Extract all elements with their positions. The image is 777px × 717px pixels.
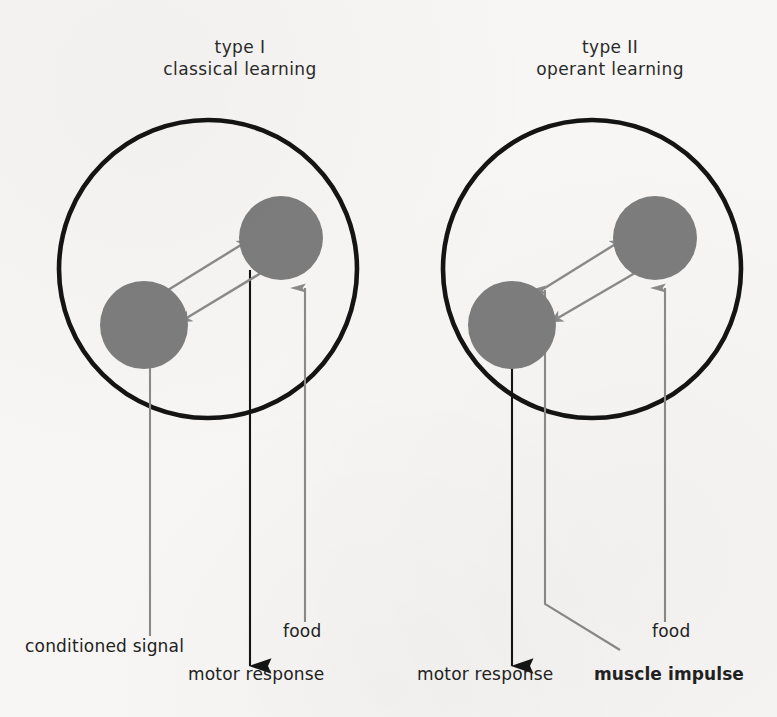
panel-right (443, 120, 741, 666)
panel-left-upper-right-node (239, 196, 323, 280)
panel-left-title: type I classical learning (130, 36, 350, 80)
caption-conditioned-signal: conditioned signal (25, 636, 184, 656)
panel-right-upper-right-node (613, 196, 697, 280)
panel-left (59, 120, 357, 666)
panel-right-boundary-circle (443, 120, 741, 418)
panel-left-title-line2: classical learning (130, 58, 350, 80)
caption-muscle-impulse: muscle impulse (594, 664, 744, 684)
panel-left-boundary-circle (59, 120, 357, 418)
panel-right-title-line1: type II (500, 36, 720, 58)
panel-right-lower-left-node (468, 281, 556, 369)
caption-food-left: food (283, 621, 321, 641)
diagram-page: type I classical learning type II operan… (0, 0, 777, 717)
panel-left-return-link-arrow (180, 273, 261, 322)
caption-motor-response-left: motor response (188, 664, 324, 684)
panel-right-title-line2: operant learning (500, 58, 720, 80)
panel-right-muscle-impulse-arrow (545, 290, 620, 650)
panel-left-title-line1: type I (130, 36, 350, 58)
caption-food-right: food (652, 621, 690, 641)
panel-right-title: type II operant learning (500, 36, 720, 80)
diagram-canvas (0, 0, 777, 717)
panel-right-forward-link-arrow (540, 240, 622, 291)
caption-motor-response-right: motor response (417, 664, 553, 684)
panel-left-forward-link-arrow (168, 240, 249, 290)
panel-right-return-link-arrow (551, 273, 635, 322)
panel-left-lower-left-node (100, 281, 188, 369)
